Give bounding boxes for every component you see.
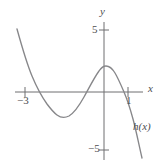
y-tick-label-5: 5 bbox=[92, 24, 98, 35]
x-axis-label: x bbox=[148, 83, 153, 94]
graph-figure: y x 5 −5 −3 1 h(x) bbox=[0, 0, 165, 166]
function-label-hx: h(x) bbox=[133, 121, 151, 132]
y-axis-label: y bbox=[100, 6, 105, 17]
y-tick-label-minus-5: −5 bbox=[88, 143, 100, 154]
function-curve-hx bbox=[17, 29, 142, 158]
plot-canvas bbox=[0, 0, 165, 166]
x-tick-label-minus-3: −3 bbox=[17, 95, 29, 106]
x-tick-label-1: 1 bbox=[126, 95, 132, 106]
